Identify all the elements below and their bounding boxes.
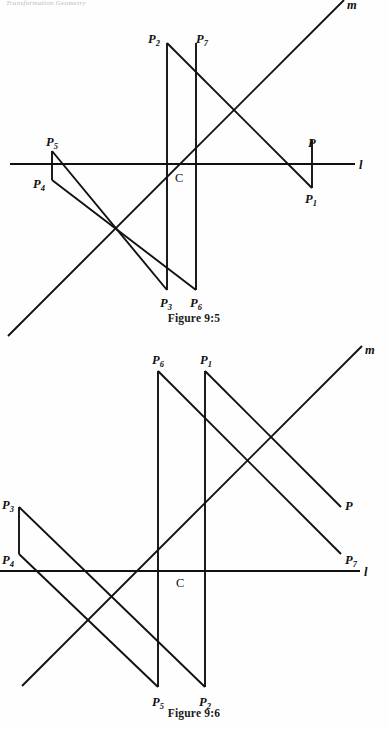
figure-9-6: P P1 P2 P3 P4 P5 P6 P7 l m C [0, 340, 388, 729]
point-label-P6: P6 [190, 296, 203, 312]
point-label-P3: P3 [160, 296, 173, 312]
point-label-P1: P1 [305, 192, 317, 208]
point-label-P4: P4 [2, 553, 14, 569]
line-m [22, 346, 362, 686]
center-label-C: C [176, 576, 184, 590]
point-label-P5: P5 [46, 135, 59, 151]
figure-9-5-caption: Figure 9:5 [0, 312, 388, 324]
point-label-P7: P7 [196, 32, 209, 48]
center-label-C: C [175, 171, 183, 185]
point-label-P1: P1 [200, 353, 212, 369]
axis-label-l: l [364, 565, 368, 579]
figure-9-5-drawing: P P1 P2 P3 P4 P5 P6 P7 l m C [0, 0, 388, 340]
figure-9-5: P P1 P2 P3 P4 P5 P6 P7 l m C [0, 0, 388, 340]
point-label-P6: P6 [152, 353, 165, 369]
point-label-P: P [308, 136, 316, 150]
page-canvas: Transformation Geometry P P1 [0, 0, 388, 729]
point-label-P: P [345, 499, 353, 513]
segment-p5-p3 [52, 151, 167, 290]
axis-label-m: m [347, 0, 357, 12]
figure-9-6-drawing: P P1 P2 P3 P4 P5 P6 P7 l m C [0, 340, 388, 729]
point-label-P4: P4 [33, 177, 45, 193]
segment-p4-p6 [52, 180, 196, 290]
point-label-P3: P3 [2, 498, 15, 514]
point-label-P7: P7 [345, 553, 358, 569]
figure-9-6-caption: Figure 9:6 [0, 707, 388, 719]
axis-label-l: l [359, 158, 363, 172]
point-label-P2: P2 [148, 32, 161, 48]
segment-p2-p1 [167, 43, 312, 188]
axis-label-m: m [365, 343, 375, 357]
segment-p6-p7 [158, 371, 341, 554]
line-m [8, 0, 344, 336]
